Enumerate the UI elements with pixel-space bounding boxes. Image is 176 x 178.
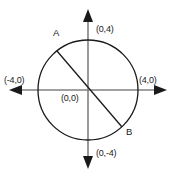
y-axis-up-arrowhead — [83, 9, 93, 22]
label-point-b: B — [126, 127, 132, 137]
chord-ab — [57, 51, 122, 127]
label-point-a: A — [53, 28, 59, 38]
coordinate-plane-svg — [0, 0, 176, 178]
label-point-0-neg4: (0,-4) — [96, 148, 116, 158]
y-axis-down-arrowhead — [83, 156, 93, 169]
x-axis-right-arrowhead — [154, 85, 167, 95]
label-origin: (0,0) — [61, 93, 79, 103]
label-point-4-0: (4,0) — [139, 75, 157, 85]
label-point-neg4-0: (-4,0) — [4, 75, 24, 85]
x-axis-left-arrowhead — [9, 85, 22, 95]
label-point-0-4: (0,4) — [96, 24, 114, 34]
geometry-figure: (0,4) (4,0) (-4,0) (0,-4) (0,0) A B — [0, 0, 176, 178]
